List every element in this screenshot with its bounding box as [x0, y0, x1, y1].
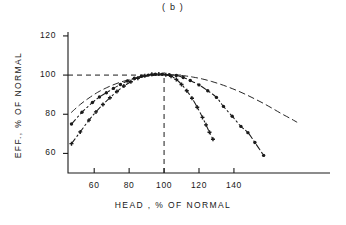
- y-axis-tick-label: 60: [30, 147, 56, 157]
- y-axis-title: EFF., % OF NORMAL: [13, 35, 23, 175]
- data-point-marker: [182, 76, 185, 79]
- data-point-marker: [246, 131, 249, 134]
- axis-spine: [68, 32, 330, 173]
- data-point-marker: [189, 79, 192, 82]
- x-axis-tick-label: 80: [116, 180, 142, 190]
- data-point-marker: [197, 83, 200, 86]
- series-line-dot-marker-curve: [71, 74, 263, 155]
- data-point-marker: [105, 91, 108, 94]
- data-point-marker: [126, 79, 129, 82]
- data-point-marker: [98, 95, 101, 98]
- data-point-marker: [262, 154, 265, 157]
- data-point-marker: [195, 105, 199, 109]
- data-point-marker: [119, 83, 122, 86]
- data-point-marker: [143, 74, 147, 78]
- data-point-marker: [230, 115, 233, 118]
- data-point-marker: [211, 137, 215, 141]
- data-point-marker: [80, 111, 83, 114]
- data-point-marker: [215, 96, 218, 99]
- x-axis-tick-label: 120: [186, 180, 212, 190]
- data-point-marker: [101, 102, 105, 106]
- y-axis-tick-label: 100: [30, 69, 56, 79]
- data-point-marker: [91, 101, 94, 104]
- data-point-marker: [253, 141, 256, 144]
- x-axis-tick-label: 140: [221, 180, 247, 190]
- y-axis-tick-label: 120: [30, 30, 56, 40]
- series-line-broad-curve: [71, 75, 296, 122]
- data-point-marker: [206, 89, 209, 92]
- data-point-marker: [112, 87, 115, 90]
- data-point-marker: [207, 130, 211, 134]
- series-line-cross-marker-curve: [71, 74, 212, 144]
- x-axis-title: HEAD , % OF NORMAL: [0, 200, 346, 210]
- data-point-marker: [175, 74, 178, 77]
- data-point-marker: [204, 123, 208, 127]
- figure-root: ( b ) EFF., % OF NORMAL HEAD , % OF NORM…: [0, 0, 346, 225]
- x-axis-tick-label: 60: [81, 180, 107, 190]
- x-axis-tick-label: 100: [151, 180, 177, 190]
- data-point-marker: [239, 125, 242, 128]
- y-axis-tick-label: 80: [30, 108, 56, 118]
- data-point-marker: [200, 115, 204, 119]
- data-point-marker: [222, 105, 225, 108]
- data-point-marker: [70, 122, 73, 125]
- data-point-marker: [190, 96, 194, 100]
